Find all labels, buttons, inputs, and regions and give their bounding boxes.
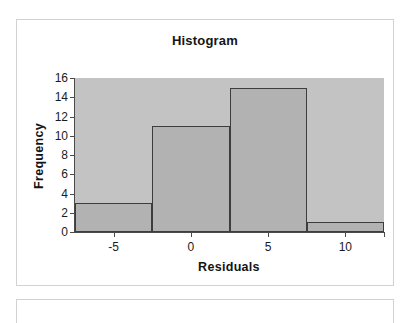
x-axis-tick [114,232,115,237]
y-axis-tick [70,213,75,214]
y-axis-tick-label: 16 [55,71,68,85]
x-axis-title: Residuals [74,260,384,274]
y-axis-tick [70,155,75,156]
y-axis-tick-label: 0 [61,225,68,239]
y-axis-tick-label: 2 [61,206,68,220]
next-section-card [16,299,394,323]
y-axis-tick [70,194,75,195]
y-axis-tick-label: 6 [61,167,68,181]
x-axis-tick-label: 0 [188,240,195,254]
x-axis-tick-label: 5 [265,240,272,254]
y-axis-tick [70,78,75,79]
histogram-bar [152,126,229,232]
y-axis-tick [70,136,75,137]
y-axis-title: Frequency [31,78,47,233]
y-axis-tick-label: 14 [55,90,68,104]
y-axis-tick [70,117,75,118]
plot-area: 0246810121416-50510 [74,78,384,233]
y-axis-tick [70,97,75,98]
x-axis-tick [268,232,269,237]
y-axis-tick [70,232,75,233]
histogram-chart-card: Histogram Frequency 0246810121416-50510 … [16,19,394,286]
histogram-bar [307,222,384,232]
histogram-bar [75,203,152,232]
y-axis-tick [70,174,75,175]
y-axis-tick-label: 10 [55,129,68,143]
x-axis-tick [191,232,192,237]
x-axis-end-tick [384,232,385,237]
y-axis-tick-label: 12 [55,110,68,124]
y-axis-title-text: Frequency [32,123,46,189]
x-axis-tick-label: 10 [339,240,352,254]
y-axis-tick-label: 8 [61,148,68,162]
chart-title: Histogram [17,33,393,48]
x-axis-tick [345,232,346,237]
y-axis-tick-label: 4 [61,187,68,201]
x-axis-tick-label: -5 [108,240,119,254]
histogram-bar [230,88,307,232]
